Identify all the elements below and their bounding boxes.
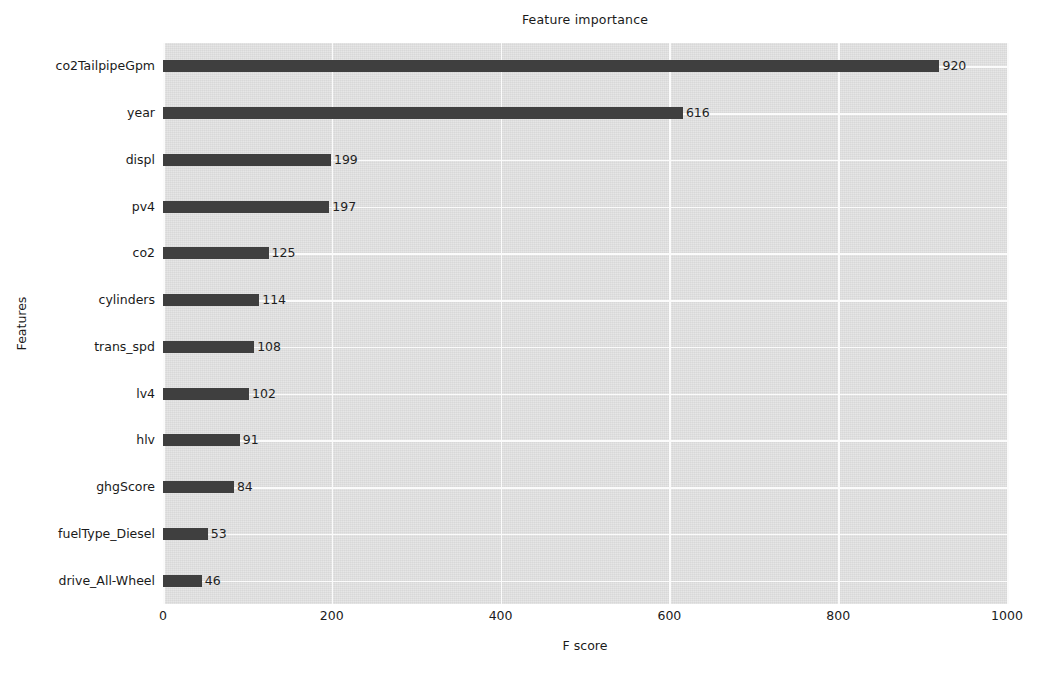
bar bbox=[163, 575, 202, 587]
y-tick-label: pv4 bbox=[0, 200, 155, 214]
bar bbox=[163, 107, 683, 119]
bar-value-label: 108 bbox=[257, 338, 281, 356]
bar bbox=[163, 481, 234, 493]
bar-value-label: 197 bbox=[332, 198, 356, 216]
y-tick-label: year bbox=[0, 106, 155, 120]
bar bbox=[163, 201, 329, 213]
plot-area: 92061619919712511410810291845346 bbox=[163, 43, 1007, 604]
horizontal-gridline bbox=[163, 440, 1007, 441]
horizontal-gridline bbox=[163, 394, 1007, 395]
x-tick-label: 400 bbox=[489, 608, 513, 623]
x-axis-tick-labels: 02004006008001000 bbox=[163, 608, 1007, 632]
bar-value-label: 114 bbox=[262, 291, 286, 309]
y-tick-label: co2 bbox=[0, 246, 155, 260]
vertical-gridline bbox=[163, 43, 165, 604]
bar-value-label: 199 bbox=[334, 151, 358, 169]
bar-value-label: 920 bbox=[942, 57, 966, 75]
bar-value-label: 84 bbox=[237, 478, 253, 496]
bar bbox=[163, 388, 249, 400]
x-tick-label: 200 bbox=[320, 608, 344, 623]
plot-background-texture bbox=[163, 43, 1007, 604]
y-axis-tick-labels: co2TailpipeGpmyeardisplpv4co2cylinderstr… bbox=[0, 43, 155, 604]
chart-title: Feature importance bbox=[163, 12, 1007, 27]
x-tick-label: 800 bbox=[826, 608, 850, 623]
y-tick-label: lv4 bbox=[0, 387, 155, 401]
y-tick-label: trans_spd bbox=[0, 340, 155, 354]
bar-value-label: 616 bbox=[686, 104, 710, 122]
bar bbox=[163, 341, 254, 353]
feature-importance-chart: Feature importance Features co2TailpipeG… bbox=[0, 0, 1042, 689]
vertical-gridline bbox=[669, 43, 671, 604]
bar bbox=[163, 528, 208, 540]
horizontal-gridline bbox=[163, 300, 1007, 301]
y-tick-label: hlv bbox=[0, 433, 155, 447]
bar bbox=[163, 434, 240, 446]
bar bbox=[163, 60, 939, 72]
y-tick-label: cylinders bbox=[0, 293, 155, 307]
x-axis-label: F score bbox=[163, 638, 1007, 653]
y-tick-label: ghgScore bbox=[0, 480, 155, 494]
x-tick-label: 600 bbox=[657, 608, 681, 623]
bar bbox=[163, 154, 331, 166]
x-tick-label: 0 bbox=[159, 608, 167, 623]
horizontal-gridline bbox=[163, 347, 1007, 348]
bar bbox=[163, 247, 269, 259]
x-tick-label: 1000 bbox=[991, 608, 1023, 623]
bar-value-label: 102 bbox=[252, 385, 276, 403]
vertical-gridline bbox=[1007, 43, 1009, 604]
y-tick-label: co2TailpipeGpm bbox=[0, 59, 155, 73]
y-tick-label: drive_All-Wheel bbox=[0, 574, 155, 588]
bar-value-label: 91 bbox=[243, 431, 259, 449]
horizontal-gridline bbox=[163, 581, 1007, 582]
vertical-gridline bbox=[838, 43, 840, 604]
bar bbox=[163, 294, 259, 306]
bar-value-label: 125 bbox=[272, 244, 296, 262]
y-tick-label: fuelType_Diesel bbox=[0, 527, 155, 541]
horizontal-gridline bbox=[163, 534, 1007, 535]
y-tick-label: displ bbox=[0, 153, 155, 167]
vertical-gridline bbox=[332, 43, 334, 604]
bar-value-label: 53 bbox=[211, 525, 227, 543]
vertical-gridline bbox=[501, 43, 503, 604]
horizontal-gridline bbox=[163, 487, 1007, 488]
bar-value-label: 46 bbox=[205, 572, 221, 590]
